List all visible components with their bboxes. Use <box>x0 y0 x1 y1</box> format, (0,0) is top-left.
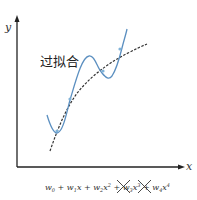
data-point <box>101 69 104 72</box>
axes <box>15 15 186 170</box>
data-point <box>68 97 71 100</box>
y-axis-label: y <box>5 21 11 34</box>
data-point <box>55 129 58 132</box>
overfitting-diagram: w0 + w1x + w2x2 + w3x3 + w4x4 <box>0 0 197 200</box>
formula: w0 + w1x + w2x2 + w3x3 + w4x4 <box>45 180 170 193</box>
overfit-curve <box>47 29 127 133</box>
data-point <box>118 47 121 50</box>
x-axis-label: x <box>186 160 192 173</box>
overfitting-label: 过拟合 <box>40 51 79 70</box>
x-axis-arrow-icon <box>178 165 185 170</box>
svg-text:w0 + w1x + w2x2 + w3x3 + w4x4: w0 + w1x + w2x2 + w3x3 + w4x4 <box>45 182 170 193</box>
y-axis-arrow-icon <box>15 15 20 22</box>
